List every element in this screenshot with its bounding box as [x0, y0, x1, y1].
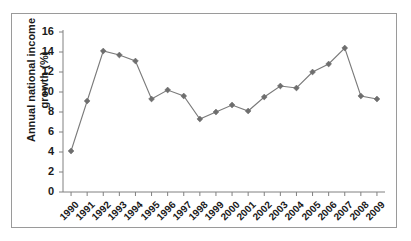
- chart-frame: Annual national income growth (%) 024681…: [11, 13, 397, 228]
- data-point-marker: [100, 48, 106, 54]
- chart-figure: Annual national income growth (%) 024681…: [0, 0, 411, 241]
- y-tick-label: 8: [32, 105, 54, 117]
- axis-lines: [63, 30, 385, 192]
- y-tick-label: 0: [32, 185, 54, 197]
- y-tick-label: 12: [32, 65, 54, 77]
- data-point-marker: [149, 96, 155, 102]
- data-point-marker: [165, 87, 171, 93]
- data-point-marker: [213, 109, 219, 115]
- data-point-marker: [68, 148, 74, 154]
- y-tick-label: 10: [32, 85, 54, 97]
- y-tick-label: 16: [32, 25, 54, 37]
- y-tick-label: 2: [32, 165, 54, 177]
- data-point-marker: [358, 93, 364, 99]
- data-markers: [68, 45, 380, 154]
- chart-plot-area: [12, 14, 396, 227]
- y-tick-label: 14: [32, 45, 54, 57]
- y-tick-label: 4: [32, 145, 54, 157]
- axis-ticks: [59, 32, 377, 196]
- data-point-marker: [116, 52, 122, 58]
- y-tick-label: 6: [32, 125, 54, 137]
- data-point-marker: [84, 98, 90, 104]
- data-point-marker: [229, 102, 235, 108]
- data-point-marker: [133, 58, 139, 64]
- data-point-marker: [374, 96, 380, 102]
